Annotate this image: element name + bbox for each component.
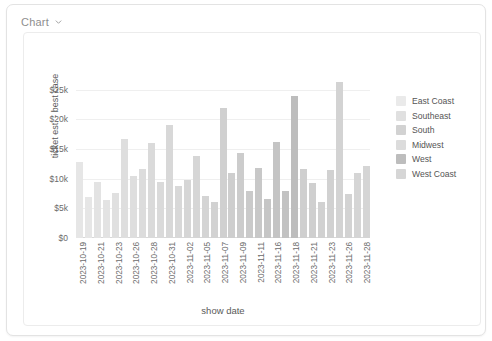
plot-area (76, 78, 370, 238)
x-axis-tick-label: 2023-10-23 (115, 242, 124, 284)
x-axis-tick-label: 2023-11-07 (221, 242, 230, 283)
legend-item[interactable]: East Coast (396, 96, 486, 106)
bar[interactable] (148, 143, 155, 238)
legend-item[interactable]: Midwest (396, 140, 486, 150)
x-axis-tick-label: 2023-11-21 (310, 242, 319, 283)
legend-swatch (396, 96, 406, 106)
bar[interactable] (157, 182, 164, 238)
bar[interactable] (103, 200, 110, 238)
bar[interactable] (255, 168, 262, 238)
legend-item[interactable]: Southeast (396, 111, 486, 121)
legend-label: Southeast (412, 111, 451, 121)
x-axis-tick-label: 2023-11-23 (328, 242, 337, 283)
x-axis-tick-label: 2023-11-18 (292, 242, 301, 283)
legend-swatch (396, 169, 406, 179)
legend-item[interactable]: South (396, 125, 486, 135)
x-axis-tick-label: 2023-11-05 (203, 242, 212, 283)
bar[interactable] (264, 199, 271, 238)
legend-swatch (396, 140, 406, 150)
legend-item[interactable]: West Coast (396, 169, 486, 179)
bar[interactable] (300, 169, 307, 238)
bar[interactable] (112, 193, 119, 238)
bar[interactable] (228, 173, 235, 238)
x-axis-tick-label: 2023-11-26 (345, 242, 354, 283)
y-axis-tick-label: $5k (54, 203, 68, 213)
bar[interactable] (363, 166, 370, 238)
legend-swatch (396, 111, 406, 121)
x-axis-tick-label: 2023-11-11 (257, 242, 266, 283)
bar[interactable] (220, 108, 227, 238)
legend-label: Midwest (412, 140, 444, 150)
legend-label: West Coast (412, 169, 456, 179)
legend-label: East Coast (412, 96, 454, 106)
panel-title: Chart (21, 16, 49, 28)
x-axis-tick-label: 2023-10-21 (97, 242, 106, 284)
legend-swatch (396, 125, 406, 135)
bar[interactable] (76, 162, 83, 238)
chart-card: $25k$20k$15k$10k$5k$0 ticket est. - best… (23, 32, 481, 326)
bar[interactable] (193, 156, 200, 238)
bar-series (76, 78, 370, 238)
chart-panel: Chart $25k$20k$15k$10k$5k$0 ticket est. … (6, 4, 486, 336)
x-axis-tick-label: 2023-10-19 (79, 242, 88, 284)
chart-canvas: $25k$20k$15k$10k$5k$0 ticket est. - best… (24, 33, 480, 325)
bar[interactable] (318, 202, 325, 238)
bar[interactable] (327, 170, 334, 238)
y-axis-title: ticket est. - best case (50, 41, 60, 191)
chart-screenshot: Chart $25k$20k$15k$10k$5k$0 ticket est. … (0, 0, 492, 341)
bar[interactable] (139, 169, 146, 238)
bar[interactable] (184, 180, 191, 238)
x-axis-ticks: 2023-10-192023-10-212023-10-232023-10-26… (76, 242, 370, 304)
bar[interactable] (345, 194, 352, 238)
bar[interactable] (175, 186, 182, 238)
bar[interactable] (246, 191, 253, 238)
x-axis-tick-label: 2023-11-02 (186, 242, 195, 283)
bar[interactable] (282, 191, 289, 238)
legend-swatch (396, 154, 406, 164)
bar[interactable] (211, 202, 218, 238)
bar[interactable] (273, 142, 280, 238)
x-axis-tick-label: 2023-11-28 (363, 242, 372, 283)
bar[interactable] (121, 139, 128, 238)
bar[interactable] (94, 182, 101, 238)
bar[interactable] (291, 96, 298, 238)
panel-header[interactable]: Chart (21, 13, 63, 31)
bar[interactable] (202, 196, 209, 238)
x-axis-tick-label: 2023-10-28 (150, 242, 159, 284)
bar[interactable] (166, 125, 173, 238)
x-axis-title: show date (76, 305, 370, 316)
legend-label: West (412, 154, 431, 164)
bar[interactable] (237, 153, 244, 238)
bar[interactable] (336, 82, 343, 238)
chart-legend: East CoastSoutheastSouthMidwestWestWest … (396, 96, 486, 179)
bar[interactable] (85, 197, 92, 238)
bar[interactable] (354, 173, 361, 238)
bar[interactable] (130, 176, 137, 238)
x-axis-tick-label: 2023-10-31 (168, 242, 177, 284)
x-axis-tick-label: 2023-11-16 (274, 242, 283, 283)
bar[interactable] (309, 183, 316, 238)
legend-label: South (412, 125, 434, 135)
y-axis-ticks: $25k$20k$15k$10k$5k$0 (24, 78, 72, 238)
y-axis-tick-label: $0 (59, 233, 68, 243)
chevron-down-icon[interactable] (54, 17, 63, 26)
legend-item[interactable]: West (396, 154, 486, 164)
x-axis-tick-label: 2023-10-26 (132, 242, 141, 284)
x-axis-tick-label: 2023-11-09 (239, 242, 248, 283)
